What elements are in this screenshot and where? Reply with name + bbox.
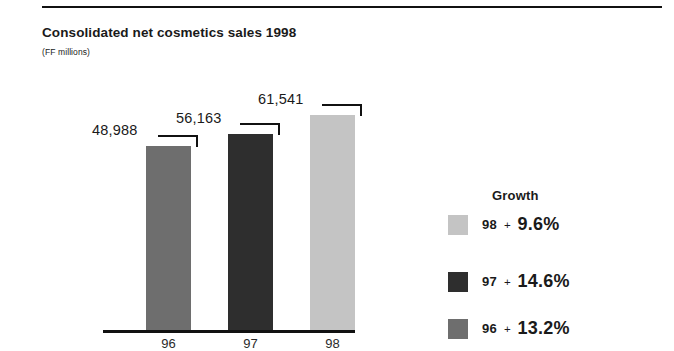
legend-sign-97: + xyxy=(504,276,511,288)
legend-item-96: 96 + 13.2% xyxy=(448,318,570,339)
value-label-96: 48,988 xyxy=(92,122,138,138)
legend-sign-98: + xyxy=(504,219,511,231)
legend-item-98: 98 + 9.6% xyxy=(448,214,559,235)
legend-growth-98: 9.6% xyxy=(518,214,560,235)
legend-swatch-96 xyxy=(448,319,468,339)
legend-year-96: 96 xyxy=(482,321,497,336)
value-label-97: 56,163 xyxy=(176,110,222,126)
leader-line-97-vertical xyxy=(278,123,280,135)
legend-sign-96: + xyxy=(504,323,511,335)
legend-item-97: 97 + 14.6% xyxy=(448,271,570,292)
legend-growth-97: 14.6% xyxy=(518,271,570,292)
legend-swatch-98 xyxy=(448,215,468,235)
legend-swatch-97 xyxy=(448,272,468,292)
leader-line-98-horizontal xyxy=(322,104,362,106)
leader-line-96-vertical xyxy=(196,135,198,147)
bar-96 xyxy=(146,146,191,330)
leader-line-98-vertical xyxy=(360,104,362,116)
leader-line-97-horizontal xyxy=(240,123,280,125)
axis-baseline xyxy=(103,330,355,333)
value-label-98: 61,541 xyxy=(258,91,304,107)
axis-tick-label-96: 96 xyxy=(146,336,191,351)
legend-title: Growth xyxy=(492,188,539,203)
axis-tick-label-98: 98 xyxy=(310,336,355,351)
bar-98 xyxy=(310,115,355,330)
axis-tick-label-97: 97 xyxy=(228,336,273,351)
leader-line-96-horizontal xyxy=(158,135,198,137)
bar-97 xyxy=(228,134,273,330)
legend-year-98: 98 xyxy=(482,217,497,232)
legend-growth-96: 13.2% xyxy=(518,318,570,339)
legend-year-97: 97 xyxy=(482,274,497,289)
